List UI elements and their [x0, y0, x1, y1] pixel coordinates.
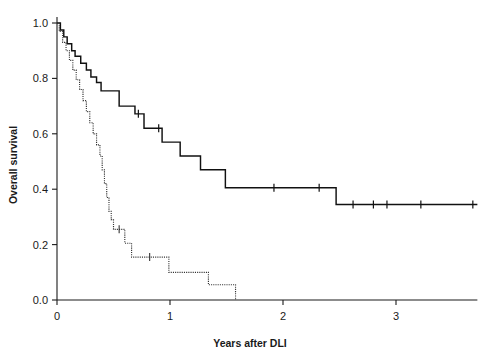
- y-tick-label-0.0: 0.0: [33, 294, 48, 306]
- y-tick-label-0.2: 0.2: [33, 239, 48, 251]
- x-axis-title: Years after DLI: [213, 337, 287, 349]
- curve-solid-curve: [57, 23, 477, 204]
- curve-dotted-curve: [57, 23, 236, 300]
- survival-plot: 0.00.20.40.60.81.00123 Years after DLI O…: [0, 0, 500, 364]
- x-tick-label-2: 2: [280, 310, 286, 322]
- y-axis-title: Overall survival: [7, 126, 19, 204]
- x-tick-label-0: 0: [54, 310, 60, 322]
- axes: [57, 17, 477, 300]
- y-tick-label-1.0: 1.0: [33, 17, 48, 29]
- x-tick-label-1: 1: [167, 310, 173, 322]
- censoring-marks: [119, 110, 473, 261]
- tick-marks: [52, 23, 396, 305]
- km-survival-figure: 0.00.20.40.60.81.00123 Years after DLI O…: [0, 0, 500, 364]
- x-tick-label-3: 3: [393, 310, 399, 322]
- survival-curves: [57, 23, 477, 300]
- y-tick-label-0.6: 0.6: [33, 128, 48, 140]
- y-tick-label-0.8: 0.8: [33, 72, 48, 84]
- y-tick-label-0.4: 0.4: [33, 183, 48, 195]
